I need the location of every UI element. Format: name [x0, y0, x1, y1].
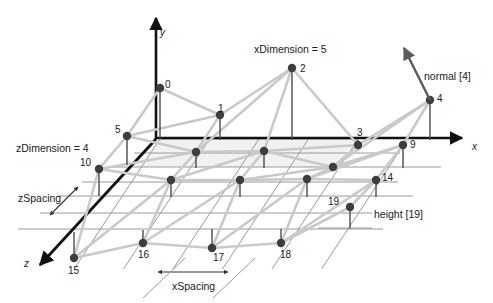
- vertex-label-3: 3: [357, 128, 363, 138]
- vertex-node-11: [167, 176, 175, 184]
- diagram-canvas: 012345910141516171819 y x z xDimension =…: [0, 0, 493, 303]
- vertex-label-17: 17: [213, 253, 224, 263]
- vertex-node-16: [139, 239, 147, 247]
- vertex-label-1: 1: [218, 104, 224, 114]
- axis-label-z: z: [24, 258, 29, 269]
- axis-label-x: x: [472, 141, 477, 152]
- vertex-node-0: [156, 84, 164, 92]
- x-spacing-guide-right: [213, 258, 255, 298]
- x-spacing-guide-left: [143, 258, 185, 298]
- vertex-node-5: [123, 132, 131, 140]
- vertex-label-9: 9: [410, 140, 416, 150]
- vertex-node-7: [260, 147, 268, 155]
- mesh-edge-row-1-1: [196, 151, 264, 152]
- mesh-edge-row-0-0: [160, 88, 220, 115]
- vertex-node-3: [354, 141, 362, 149]
- z-spacing-label: zSpacing: [18, 193, 61, 204]
- vertex-label-2: 2: [300, 64, 306, 74]
- height-value-label: height [19]: [374, 209, 423, 220]
- mesh-edge-row-2-0: [99, 169, 171, 180]
- mesh-edge-row-0-1: [220, 68, 292, 115]
- z-dimension-label: zDimension = 4: [16, 143, 89, 154]
- vertex-node-8: [329, 163, 337, 171]
- mesh-edge-row-3-1: [143, 243, 212, 248]
- vertex-label-0: 0: [165, 80, 171, 90]
- vertex-node-19: [346, 203, 354, 211]
- vertex-label-10: 10: [80, 158, 91, 168]
- mesh-diag-2-3: [281, 180, 376, 243]
- mesh-diag-0-0: [127, 115, 220, 136]
- mesh-edge-row-3-2: [212, 243, 281, 248]
- mesh-edge-row-0-2: [292, 68, 358, 145]
- vertex-label-15: 15: [68, 266, 79, 276]
- vertex-node-18: [277, 239, 285, 247]
- vertex-node-6: [192, 148, 200, 156]
- vertex-node-17: [208, 244, 216, 252]
- vertex-node-2: [288, 64, 296, 72]
- vertex-label-18: 18: [280, 250, 291, 260]
- vertex-label-4: 4: [437, 94, 443, 104]
- vertex-node-13: [303, 175, 311, 183]
- normal-vector-label: normal [4]: [424, 71, 471, 82]
- vertex-label-14: 14: [382, 173, 393, 183]
- axis-label-y: y: [160, 27, 165, 38]
- vertex-node-14: [372, 176, 380, 184]
- vertex-node-12: [236, 176, 244, 184]
- vertex-node-15: [70, 254, 78, 262]
- vertex-label-16: 16: [138, 250, 149, 260]
- vertex-node-9: [399, 141, 407, 149]
- x-dimension-label: xDimension = 5: [254, 44, 327, 55]
- mesh-edge-row-2-3: [307, 179, 376, 180]
- x-spacing-label: xSpacing: [172, 281, 215, 292]
- vertex-label-19: 19: [328, 197, 339, 207]
- vertex-node-10: [95, 165, 103, 173]
- vertex-label-5: 5: [115, 125, 121, 135]
